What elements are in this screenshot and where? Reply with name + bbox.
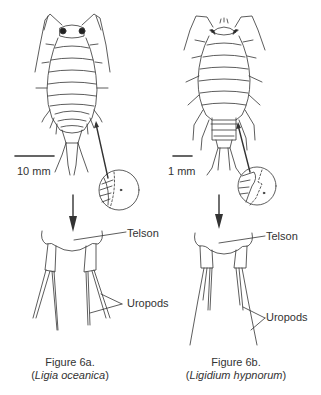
uropods-label-6b: Uropods (266, 312, 308, 323)
species-name-6a: Ligia oceanica (35, 369, 105, 381)
figure-caption-6a: Figure 6a. (Ligia oceanica) (10, 356, 130, 382)
inset-circle-6b (238, 167, 276, 205)
caption-title-6a: Figure 6a. (10, 356, 130, 369)
isopod-6b-body (184, 16, 265, 175)
telson-detail-6a (33, 231, 126, 330)
telson-detail-6b (190, 233, 265, 345)
telson-label-6b: Telson (266, 231, 298, 242)
uropods-label-6a: Uropods (127, 298, 169, 309)
telson-label-6a: Telson (127, 228, 159, 239)
inset-circle-6a (99, 170, 139, 210)
caption-species-line-6a: (Ligia oceanica) (10, 369, 130, 382)
scale-label-6b: 1 mm (168, 166, 196, 177)
pointer-arrow-6a (96, 124, 108, 178)
caption-title-6b: Figure 6b. (166, 356, 306, 369)
figure-drawings (0, 0, 321, 395)
isopod-6a-body (35, 14, 110, 175)
caption-species-line-6b: (Ligidium hypnorum) (166, 369, 306, 382)
species-name-6b: Ligidium hypnorum (190, 369, 283, 381)
figure-caption-6b: Figure 6b. (Ligidium hypnorum) (166, 356, 306, 382)
scale-label-6a: 10 mm (17, 166, 51, 177)
